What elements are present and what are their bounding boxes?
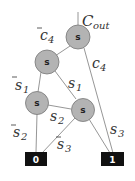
svg-text:4: 4	[99, 62, 106, 73]
edge-label-n3-t0: s 2	[11, 124, 27, 142]
edge-label-n1-t1: c 4	[92, 55, 106, 73]
svg-text:c: c	[92, 55, 100, 71]
terminal-1: 1	[101, 152, 124, 166]
svg-text:1: 1	[76, 82, 82, 93]
node-label: s	[44, 57, 49, 67]
edge-label-n1-n2: c 4	[37, 27, 54, 45]
edge-n1-n2	[55, 46, 70, 56]
svg-text:3: 3	[118, 128, 124, 139]
edge-label-n3-n4: s 2	[50, 108, 64, 126]
svg-text:s: s	[110, 121, 117, 137]
output-sub: out	[93, 20, 110, 31]
edge-label-n4-t0: s 3	[56, 136, 71, 154]
edge-n3-t0	[36, 114, 37, 152]
svg-text:4: 4	[47, 34, 54, 45]
edge-label-n4-t1: s 3	[110, 121, 124, 139]
svg-text:s: s	[13, 124, 20, 140]
svg-text:c: c	[40, 27, 48, 43]
node-label: s	[75, 32, 80, 42]
edge-label-n2-n4: s 1	[68, 75, 82, 93]
edge-n2-n3	[38, 72, 41, 92]
svg-text:s: s	[50, 108, 57, 124]
svg-text:2: 2	[20, 131, 27, 142]
terminal-label: 0	[33, 155, 39, 165]
svg-text:1: 1	[23, 84, 29, 95]
svg-text:2: 2	[57, 115, 64, 126]
svg-text:s: s	[57, 136, 64, 152]
output-label: C out	[82, 12, 110, 31]
svg-text:3: 3	[65, 143, 71, 154]
terminal-label: 1	[109, 155, 115, 165]
terminal-0: 0	[25, 152, 47, 166]
svg-text:s: s	[15, 77, 22, 93]
node-label: s	[80, 105, 85, 115]
edge-label-n2-n3: s 1	[12, 77, 29, 95]
svg-text:s: s	[68, 75, 75, 91]
edge-n4-t1	[89, 119, 110, 153]
node-n2: s	[35, 50, 59, 74]
node-label: s	[34, 98, 39, 108]
node-n4: s	[72, 99, 95, 122]
bdd-diagram: s s s s 0 1 C out c 4 c 4 s 1 s 1	[0, 0, 135, 181]
